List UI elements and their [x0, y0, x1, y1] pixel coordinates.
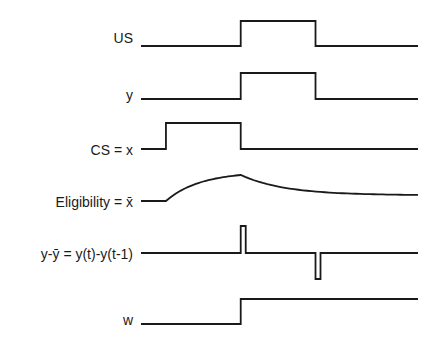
trace-w — [141, 299, 418, 324]
trace-eligibility — [141, 175, 418, 201]
label-w: w — [122, 312, 134, 328]
label-cs: CS = x — [91, 142, 133, 158]
label-us: US — [114, 30, 133, 46]
trace-y — [141, 73, 418, 99]
trace-us — [141, 21, 418, 46]
label-difference: y-ȳ = y(t)-y(t-1) — [41, 246, 133, 262]
trace-cs — [141, 123, 418, 149]
trace-difference — [141, 226, 418, 279]
label-y: y — [126, 87, 133, 103]
timing-diagram: US y CS = x Eligibility = x̄ y-ȳ = y(t)-… — [0, 0, 437, 343]
label-eligibility: Eligibility = x̄ — [56, 194, 133, 210]
